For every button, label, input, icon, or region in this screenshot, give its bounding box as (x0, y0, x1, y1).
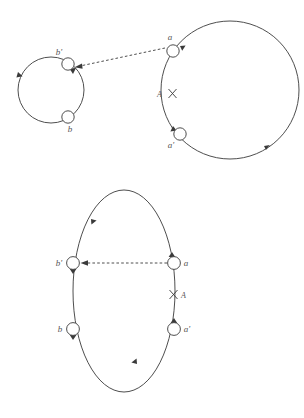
merged-cycle-arrowhead-bottom-right (131, 358, 137, 364)
cut-label-top: A (156, 90, 162, 99)
node-label: b' (56, 47, 64, 57)
diagram-canvas: A b' b a a' (0, 0, 304, 418)
node-a-prime-bottom: a' (168, 323, 192, 336)
large-cycle-arrowhead-into-a (180, 46, 186, 51)
cut-marker-top (169, 89, 177, 98)
node-label: b (58, 324, 63, 334)
node-label: a' (184, 324, 192, 334)
dashed-edge-top (80, 48, 165, 66)
node-label: b' (56, 258, 64, 268)
node-label: a' (168, 140, 176, 150)
node-label: b (68, 124, 73, 134)
bottom-panel: A b' b a a' (56, 190, 192, 392)
cut-label-bottom: A (180, 291, 186, 300)
dashed-edge-bottom-arrowhead (81, 260, 89, 266)
node-circle (62, 111, 74, 123)
cut-marker-bottom (170, 290, 178, 299)
node-b-prime-top: b' (56, 47, 74, 70)
node-b-bottom: b (58, 323, 80, 336)
node-circle (67, 323, 80, 336)
merged-cycle-arrowhead-top-left (91, 219, 97, 225)
node-label: a (168, 32, 173, 42)
node-b-top: b (62, 111, 74, 134)
merged-cycle-curve (73, 190, 175, 392)
node-a-top: a (167, 32, 179, 57)
small-cycle-curve (18, 57, 84, 123)
node-circle (168, 323, 181, 336)
node-a-bottom: a (168, 257, 189, 270)
node-circle (174, 128, 186, 140)
figure-root: A b' b a a' (0, 0, 304, 418)
node-b-prime-bottom: b' (56, 257, 80, 270)
node-circle (167, 45, 179, 57)
node-circle (168, 257, 181, 270)
node-label: a (184, 258, 189, 268)
node-circle (67, 257, 80, 270)
top-panel: A b' b a a' (16, 21, 299, 159)
node-circle (62, 58, 74, 70)
